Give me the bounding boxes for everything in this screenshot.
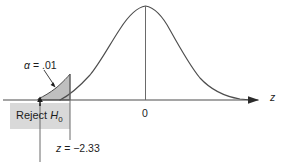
origin-tick-label: 0	[142, 108, 148, 119]
alpha-label: α = .01	[24, 60, 57, 71]
distribution-diagram	[0, 0, 291, 162]
alpha-equals: =	[30, 59, 42, 71]
reject-h0-label: Reject H0	[16, 110, 63, 124]
reject-text: Reject	[16, 109, 50, 121]
alpha-leader-line	[44, 70, 54, 85]
statistics-figure: α = .01 Reject H0 0 z = −2.33 z	[0, 0, 291, 162]
axis-arrowhead	[248, 96, 259, 104]
critical-value-equals: =	[61, 142, 73, 154]
axis-label-z: z	[270, 92, 275, 103]
hypothesis-symbol: H	[50, 109, 58, 121]
alpha-value: .01	[42, 59, 57, 71]
hypothesis-subscript: 0	[58, 115, 62, 124]
rejection-tail-shading	[38, 74, 70, 100]
critical-value-label: z = −2.33	[56, 143, 100, 154]
alpha-leader-arrowhead	[51, 82, 56, 87]
critical-value-number: −2.33	[73, 142, 100, 154]
normal-curve	[60, 6, 258, 100]
